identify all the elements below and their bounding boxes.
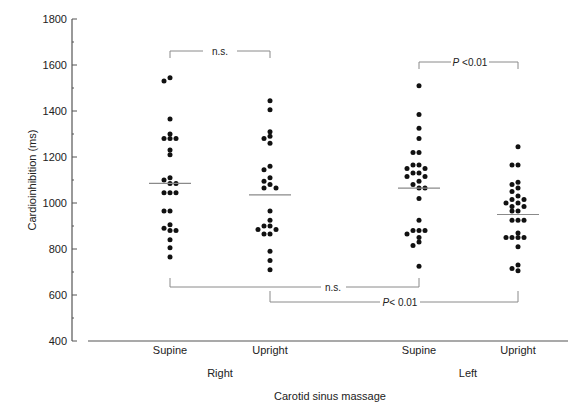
data-point xyxy=(504,235,509,240)
bracket-label-upright-p: P< 0.01 xyxy=(383,297,418,308)
data-point xyxy=(417,218,422,223)
data-point xyxy=(168,117,173,122)
data-point xyxy=(417,264,422,269)
data-point xyxy=(510,189,515,194)
data-point xyxy=(262,232,267,237)
data-point xyxy=(262,136,267,141)
category-label-right-upright: Upright xyxy=(252,344,287,356)
data-point xyxy=(268,164,273,169)
p-value: < 0.01 xyxy=(389,297,418,308)
dot-plot-chart: 40060080010001200140016001800 Cardioinhi… xyxy=(0,0,585,410)
data-point xyxy=(522,235,527,240)
data-point xyxy=(168,152,173,157)
data-point xyxy=(510,266,515,271)
data-point xyxy=(417,126,422,131)
data-point xyxy=(411,228,416,233)
data-point xyxy=(168,190,173,195)
data-point xyxy=(268,218,273,223)
data-point xyxy=(417,136,422,141)
data-point xyxy=(168,132,173,137)
data-point xyxy=(162,79,167,84)
data-point xyxy=(516,163,521,168)
data-point xyxy=(411,150,416,155)
y-tick-label: 1200 xyxy=(43,151,67,163)
data-point xyxy=(274,227,279,232)
data-point xyxy=(256,227,261,232)
y-tick-label: 400 xyxy=(49,335,67,347)
data-point xyxy=(262,224,267,229)
data-point xyxy=(168,228,173,233)
data-point xyxy=(262,167,267,172)
data-point xyxy=(168,245,173,250)
data-point xyxy=(417,179,422,184)
data-point xyxy=(274,186,279,191)
data-point xyxy=(168,222,173,227)
data-point xyxy=(516,201,521,206)
data-point xyxy=(510,197,515,202)
data-point xyxy=(516,144,521,149)
group-label-left: Left xyxy=(459,367,477,379)
data-point xyxy=(417,163,422,168)
data-point xyxy=(516,244,521,249)
data-point xyxy=(174,136,179,141)
data-point xyxy=(168,136,173,141)
p-value: <0.01 xyxy=(459,57,488,68)
data-point xyxy=(162,178,167,183)
data-point xyxy=(168,75,173,80)
data-point xyxy=(423,166,428,171)
data-point xyxy=(423,174,428,179)
y-tick-label: 800 xyxy=(49,243,67,255)
data-point xyxy=(162,190,167,195)
data-point xyxy=(268,232,273,237)
data-point xyxy=(417,83,422,88)
data-point xyxy=(417,228,422,233)
data-point xyxy=(516,268,521,273)
y-axis: 40060080010001200140016001800 xyxy=(43,13,77,347)
data-point xyxy=(516,235,521,240)
y-tick-label: 1600 xyxy=(43,59,67,71)
category-label-left-upright: Upright xyxy=(500,344,535,356)
chart-container: 40060080010001200140016001800 Cardioinhi… xyxy=(0,0,585,410)
data-point xyxy=(268,267,273,272)
data-point xyxy=(174,190,179,195)
data-point xyxy=(516,218,521,223)
data-point xyxy=(168,209,173,214)
data-point xyxy=(162,209,167,214)
data-point xyxy=(522,204,527,209)
data-point xyxy=(510,218,515,223)
group-label-right: Right xyxy=(207,367,233,379)
data-point xyxy=(516,263,521,268)
data-point xyxy=(162,226,167,231)
data-point xyxy=(268,98,273,103)
data-point xyxy=(522,197,527,202)
data-point xyxy=(417,240,422,245)
data-point xyxy=(268,182,273,187)
data-point xyxy=(417,196,422,201)
data-point xyxy=(268,134,273,139)
data-point xyxy=(510,204,515,209)
data-point xyxy=(516,186,521,191)
data-point xyxy=(168,175,173,180)
data-point xyxy=(268,175,273,180)
data-point xyxy=(417,235,422,240)
y-tick-label: 1400 xyxy=(43,105,67,117)
data-point xyxy=(516,209,521,214)
data-point xyxy=(510,235,515,240)
data-point xyxy=(405,166,410,171)
data-point xyxy=(268,209,273,214)
data-point xyxy=(510,163,515,168)
data-point xyxy=(423,228,428,233)
data-point xyxy=(268,224,273,229)
data-points xyxy=(162,75,527,273)
data-point xyxy=(268,129,273,134)
data-point xyxy=(268,258,273,263)
data-point xyxy=(510,209,515,214)
data-point xyxy=(417,171,422,176)
category-label-left-supine: Supine xyxy=(402,344,436,356)
data-point xyxy=(168,148,173,153)
data-point xyxy=(516,180,521,185)
data-point xyxy=(516,194,521,199)
bracket-bottom-supine xyxy=(170,278,419,287)
data-point xyxy=(522,218,527,223)
data-point xyxy=(411,243,416,248)
